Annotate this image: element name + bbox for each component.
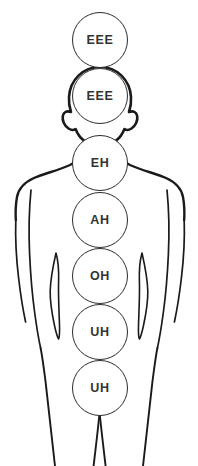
vowel-body-diagram: EEE EEE EH AH OH UH UH (0, 0, 198, 466)
resonance-label-above-head: EEE (87, 34, 114, 47)
right-leg-outer-line (143, 348, 157, 466)
resonance-label-chest: AH (90, 214, 109, 227)
left-leg-outer-line (41, 348, 55, 466)
resonance-label-abdomen: OH (90, 270, 110, 283)
resonance-label-head: EEE (87, 90, 114, 103)
resonance-circle-throat[interactable]: EH (72, 135, 128, 191)
left-arm-outer-line (16, 220, 26, 322)
resonance-circle-pelvis[interactable]: UH (72, 360, 128, 416)
right-arm-gap-shape (138, 253, 147, 339)
resonance-circle-above-head[interactable]: EEE (72, 12, 128, 68)
resonance-label-pelvis: UH (90, 382, 109, 395)
left-inner-leg-line (94, 412, 100, 466)
right-inner-leg-line (100, 412, 106, 466)
left-torso-side-line (29, 190, 41, 348)
resonance-circle-head[interactable]: EEE (72, 68, 128, 124)
resonance-label-lower-abdomen: UH (90, 326, 109, 339)
right-torso-side-line (157, 190, 169, 348)
resonance-circle-abdomen[interactable]: OH (72, 248, 128, 304)
resonance-circle-chest[interactable]: AH (72, 192, 128, 248)
resonance-circle-lower-abdomen[interactable]: UH (72, 304, 128, 360)
resonance-label-throat: EH (91, 157, 110, 170)
right-arm-outer-line (174, 220, 184, 322)
left-arm-gap-shape (50, 253, 59, 339)
